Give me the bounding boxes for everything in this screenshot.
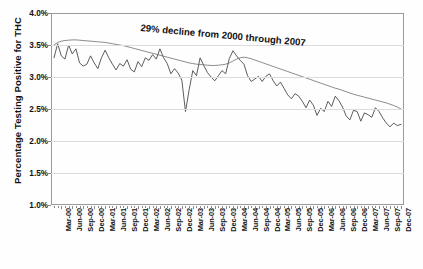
x-minor-tick-mark [91,206,92,208]
x-tick-label: Sep-00 [86,208,95,232]
x-minor-tick-mark [397,206,398,208]
x-minor-tick-mark [229,206,230,208]
x-minor-tick-mark [270,206,271,208]
x-minor-tick-mark [145,206,146,208]
x-minor-tick-mark [284,206,285,208]
x-minor-tick-mark [127,206,128,208]
x-tick-label: Jun-03 [207,208,216,231]
x-minor-tick-mark [215,206,216,208]
x-minor-tick-mark [171,206,172,208]
x-minor-tick-mark [196,206,197,208]
x-minor-tick-mark [83,206,84,208]
x-minor-tick-mark [317,206,318,208]
x-minor-tick-mark [87,206,88,208]
x-minor-tick-mark [167,206,168,208]
y-tick-mark [47,109,51,110]
x-tick-label: Jun-01 [119,208,128,231]
x-tick-label: Mar-02 [152,208,161,231]
x-tick-label: Mar-06 [327,208,336,231]
x-minor-tick-mark [335,206,336,208]
x-tick-label: Dec-03 [229,208,238,232]
x-minor-tick-mark [375,206,376,208]
y-tick-mark [47,13,51,14]
x-minor-tick-mark [248,206,249,208]
x-minor-tick-mark [379,206,380,208]
x-minor-tick-mark [116,206,117,208]
x-tick-label: Dec-02 [185,208,194,232]
thc-positive-trend-chart: Percentage Testing Positive for THC 4.0%… [0,0,423,269]
gridline [51,141,404,142]
x-minor-tick-mark [343,206,344,208]
x-minor-tick-mark [112,206,113,208]
y-tick-label: 2.5% [29,105,48,114]
x-tick-label: Dec-04 [273,208,282,232]
x-tick-label: Mar-05 [283,208,292,231]
gridline [51,45,404,46]
x-tick-label: Sep-07 [393,208,402,232]
x-minor-tick-mark [332,206,333,208]
x-tick-label: Jun-06 [338,208,347,231]
x-minor-tick-mark [237,206,238,208]
x-minor-tick-mark [54,206,55,208]
x-minor-tick-mark [61,206,62,208]
x-tick-label: Sep-05 [305,208,314,232]
x-minor-tick-mark [69,206,70,208]
x-minor-tick-mark [182,206,183,208]
x-minor-tick-mark [178,206,179,208]
x-tick-label: Mar-07 [371,208,380,231]
x-minor-tick-mark [299,206,300,208]
x-minor-tick-mark [255,206,256,208]
x-minor-tick-mark [156,206,157,208]
x-tick-label: Mar-00 [64,208,73,231]
x-minor-tick-mark [240,206,241,208]
x-minor-tick-mark [291,206,292,208]
x-minor-tick-mark [324,206,325,208]
x-minor-tick-mark [226,206,227,208]
gridline [51,77,404,78]
x-minor-tick-mark [339,206,340,208]
x-minor-tick-mark [200,206,201,208]
x-minor-tick-mark [262,206,263,208]
x-tick-label: Dec-00 [97,208,106,232]
x-minor-tick-mark [109,206,110,208]
x-minor-tick-mark [390,206,391,208]
y-tick-label: 3.5% [29,41,48,50]
x-minor-tick-mark [175,206,176,208]
x-minor-tick-mark [160,206,161,208]
x-minor-tick-mark [233,206,234,208]
x-minor-tick-mark [361,206,362,208]
x-minor-tick-mark [193,206,194,208]
x-minor-tick-mark [58,206,59,208]
x-minor-tick-mark [328,206,329,208]
x-minor-tick-mark [372,206,373,208]
x-minor-tick-mark [244,206,245,208]
x-minor-tick-mark [120,206,121,208]
x-minor-tick-mark [266,206,267,208]
x-minor-tick-mark [98,206,99,208]
x-minor-tick-mark [350,206,351,208]
x-tick-label: Sep-06 [349,208,358,232]
plot-area [51,13,404,205]
x-minor-tick-mark [346,206,347,208]
y-tick-mark [47,77,51,78]
x-minor-tick-mark [383,206,384,208]
x-minor-tick-mark [142,206,143,208]
x-minor-tick-mark [310,206,311,208]
y-axis-tick-labels: 4.0%3.5%3.0%2.5%2.0%1.5%1.0% [14,0,48,269]
x-minor-tick-mark [321,206,322,208]
x-minor-tick-mark [364,206,365,208]
x-minor-tick-mark [189,206,190,208]
y-tick-label: 1.0% [29,201,48,210]
x-tick-label: Dec-05 [316,208,325,232]
x-minor-tick-mark [76,206,77,208]
x-tick-label: Dec-06 [360,208,369,232]
data-line-trend [54,40,401,109]
x-minor-tick-mark [386,206,387,208]
x-minor-tick-mark [394,206,395,208]
x-minor-tick-mark [354,206,355,208]
x-minor-tick-mark [277,206,278,208]
x-minor-tick-mark [204,206,205,208]
y-tick-mark [47,173,51,174]
y-tick-mark [47,45,51,46]
x-tick-label: Dec-07 [404,208,413,232]
